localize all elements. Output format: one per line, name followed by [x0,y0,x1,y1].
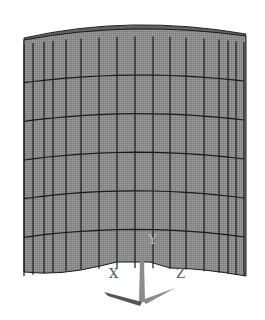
mesh-figure: X Y Z [0,0,265,320]
z-axis-label: Z [176,267,185,280]
y-axis-arrow [139,260,145,302]
x-axis-label: X [109,267,118,280]
shell-mesh [0,0,265,320]
z-axis-arrow [142,288,175,304]
y-axis-label: Y [148,233,157,246]
x-axis-arrow [104,292,142,306]
